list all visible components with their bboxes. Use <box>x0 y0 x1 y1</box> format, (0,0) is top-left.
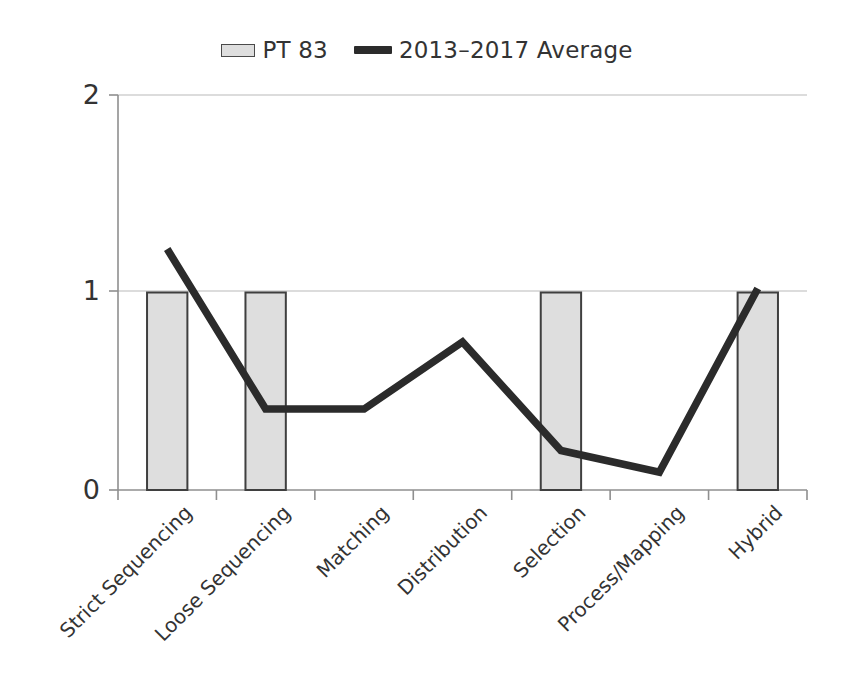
x-tick-label: Matching <box>312 501 394 583</box>
y-tick-label-1: 1 <box>83 275 100 306</box>
chart-svg: 2 1 0 Strict SequencingLoose SequencingM… <box>0 0 854 693</box>
y-tick-marks <box>109 95 118 490</box>
axes-lines <box>118 95 807 490</box>
chart-page: PT 83 2013–2017 Average 2 1 <box>0 0 854 693</box>
x-tick-labels: Strict SequencingLoose SequencingMatchin… <box>55 501 788 646</box>
x-tick-label: Selection <box>508 501 590 583</box>
x-tick-label: Hybrid <box>724 501 788 565</box>
plot-area: 2 1 0 Strict SequencingLoose SequencingM… <box>0 0 854 693</box>
bar <box>147 293 187 491</box>
bar-series-pt83 <box>147 293 778 491</box>
x-tick-label: Distribution <box>393 501 492 600</box>
bar <box>541 293 581 491</box>
gridlines <box>118 95 807 291</box>
x-tick-marks <box>118 490 807 500</box>
y-tick-label-0: 0 <box>83 474 100 505</box>
y-tick-label-2: 2 <box>83 79 100 110</box>
y-tick-labels: 2 1 0 <box>83 79 100 505</box>
